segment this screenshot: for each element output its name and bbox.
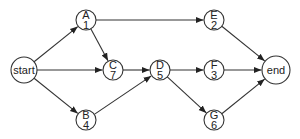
node-a: A1	[76, 9, 96, 31]
node-value: 7	[110, 69, 116, 81]
node-label: start	[13, 64, 34, 76]
node-b: B4	[76, 109, 96, 131]
node-value: 4	[83, 119, 89, 131]
node-d: D5	[150, 59, 170, 81]
node-value: 6	[211, 119, 217, 131]
node-f: F3	[204, 59, 224, 81]
node-g: G6	[204, 109, 224, 131]
edge-g-to-end	[222, 79, 265, 114]
node-value: 3	[211, 69, 217, 81]
node-label: end	[267, 64, 285, 76]
edges-group	[34, 20, 265, 114]
edge-start-to-a	[34, 27, 78, 62]
edge-b-to-d	[94, 76, 151, 115]
node-end: end	[262, 56, 290, 84]
node-value: 2	[211, 19, 217, 31]
edge-a-to-c	[91, 29, 108, 61]
node-value: 1	[83, 19, 89, 31]
node-e: E2	[204, 9, 224, 31]
node-c: C7	[103, 59, 123, 81]
node-value: 5	[157, 69, 163, 81]
node-start: start	[11, 57, 37, 83]
edge-e-to-end	[222, 26, 265, 61]
edge-start-to-b	[34, 78, 78, 113]
activity-network-diagram: startA1B4C7D5E2F3G6end	[0, 0, 300, 139]
edge-d-to-g	[167, 77, 206, 113]
